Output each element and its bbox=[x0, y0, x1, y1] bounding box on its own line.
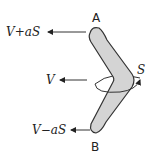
label-point-b: B bbox=[91, 140, 99, 154]
label-point-a: A bbox=[92, 11, 101, 25]
label-middle-velocity: V bbox=[46, 73, 56, 87]
boomerang-diagram: A B V+aS V V−aS S bbox=[0, 0, 151, 155]
label-bottom-velocity: V−aS bbox=[32, 123, 66, 137]
boomerang-shape bbox=[89, 28, 134, 133]
label-spin: S bbox=[137, 63, 145, 77]
label-top-velocity: V+aS bbox=[6, 25, 40, 39]
